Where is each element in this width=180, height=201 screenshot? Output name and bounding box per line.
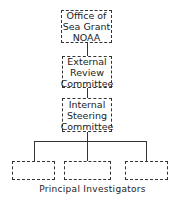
connector-horizontal-bus bbox=[34, 141, 147, 142]
node-internal-steering-committee: Internal Steering Committee bbox=[62, 98, 112, 132]
node-line: External bbox=[67, 56, 106, 67]
node-line: NOAA bbox=[73, 32, 101, 43]
connector-internal-bus bbox=[87, 132, 88, 141]
group-label-principal-investigators: Principal Investigators bbox=[20, 184, 165, 194]
node-principal-investigator-2 bbox=[64, 161, 111, 180]
connector-office-external bbox=[87, 43, 88, 56]
connector-external-internal bbox=[87, 88, 88, 98]
node-line: Office of bbox=[67, 10, 107, 21]
connector-bus-pi3 bbox=[146, 141, 147, 161]
node-line: Sea Grant bbox=[63, 21, 111, 32]
node-principal-investigator-1 bbox=[12, 161, 55, 180]
connector-bus-pi2 bbox=[87, 141, 88, 161]
node-line: Committee bbox=[61, 121, 114, 132]
node-line: Steering bbox=[67, 110, 107, 121]
node-principal-investigator-3 bbox=[125, 161, 168, 180]
connector-bus-pi1 bbox=[34, 141, 35, 161]
node-office-of-sea-grant: Office of Sea Grant NOAA bbox=[61, 10, 112, 43]
node-line: Committee bbox=[61, 78, 114, 89]
node-external-review-committee: External Review Committee bbox=[62, 56, 112, 88]
node-line: Review bbox=[70, 67, 104, 78]
node-line: Internal bbox=[69, 99, 106, 110]
